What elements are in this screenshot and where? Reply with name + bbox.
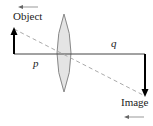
image-direction-arrow-icon — [124, 115, 129, 119]
object-distance-label: p — [33, 57, 39, 69]
object-arrowhead-icon — [11, 27, 18, 35]
image-label: Image — [121, 96, 148, 108]
image-distance-label: q — [111, 37, 117, 49]
object-label: Object — [13, 10, 42, 22]
object-direction-arrow-icon — [18, 5, 23, 9]
converging-lens — [57, 14, 71, 92]
